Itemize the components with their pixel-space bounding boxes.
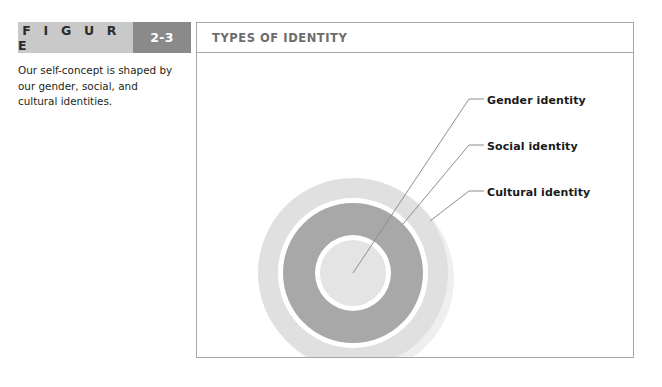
panel-title: TYPES OF IDENTITY [197, 31, 347, 45]
figure-header-band: F I G U R E 2-3 [18, 22, 191, 53]
callout-label-social: Social identity [487, 140, 578, 153]
figure-number-badge: 2-3 [133, 22, 191, 53]
figure-word-label: F I G U R E [18, 22, 133, 53]
callout-label-gender: Gender identity [487, 94, 586, 107]
leader-line-cultural [430, 191, 484, 221]
identity-rings-diagram: Gender identity Social identity Cultural… [197, 53, 633, 357]
figure-caption: Our self-concept is shaped by our gender… [18, 63, 174, 110]
panel-title-bar: TYPES OF IDENTITY [197, 23, 633, 53]
callout-label-cultural: Cultural identity [487, 186, 590, 199]
figure-panel: TYPES OF IDENTITY Gender identity Social… [196, 22, 634, 358]
